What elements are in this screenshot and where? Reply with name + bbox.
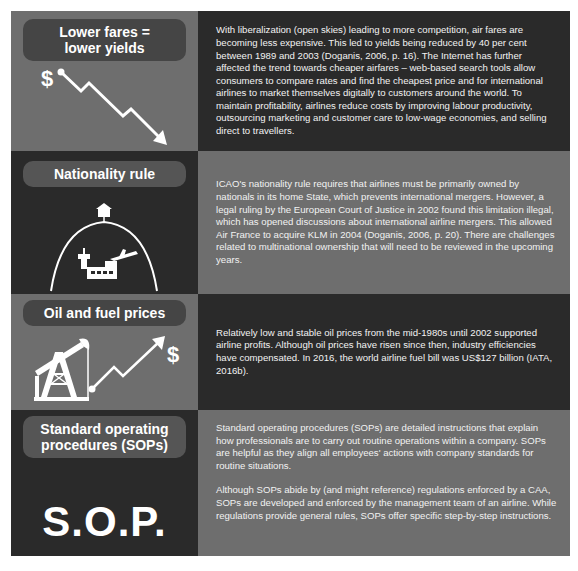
svg-text:$: $ [167, 342, 179, 367]
paragraph: Relatively low and stable oil prices fro… [216, 327, 558, 377]
section-oil-fuel-prices: Oil and fuel prices $ Relat [11, 294, 570, 410]
infographic-table: Lower fares = lower yields $ With libera… [11, 11, 570, 556]
section-body: ICAO's nationality rule requires that ai… [198, 151, 570, 294]
section-lower-fares: Lower fares = lower yields $ With libera… [11, 11, 570, 151]
section-header-cell: Lower fares = lower yields $ [11, 11, 198, 151]
title-line: procedures (SOPs) [27, 437, 182, 453]
paragraph: Standard operating procedures (SOPs) are… [216, 422, 558, 472]
oil-pump-up-trend-icon: $ [11, 294, 198, 410]
section-header-cell: Standard operating procedures (SOPs) S.O… [11, 410, 198, 556]
section-body: With liberalization (open skies) leading… [198, 11, 570, 151]
sop-text-icon: S.O.P. [11, 498, 198, 546]
section-header-cell: Oil and fuel prices $ [11, 294, 198, 410]
section-body: Relatively low and stable oil prices fro… [198, 294, 570, 410]
paragraph: ICAO's nationality rule requires that ai… [216, 178, 558, 266]
section-body: Standard operating procedures (SOPs) are… [198, 410, 570, 556]
airport-under-dome-icon [11, 151, 198, 294]
dollar-down-trend-icon: $ [11, 11, 198, 151]
paragraph: Although SOPs abide by (and might refere… [216, 484, 558, 522]
section-nationality-rule: Nationality rule [11, 151, 570, 294]
section-sops: Standard operating procedures (SOPs) S.O… [11, 410, 570, 556]
svg-text:$: $ [41, 66, 53, 91]
section-title: Standard operating procedures (SOPs) [23, 416, 186, 458]
paragraph: With liberalization (open skies) leading… [216, 24, 558, 137]
section-header-cell: Nationality rule [11, 151, 198, 294]
title-line: Standard operating [27, 421, 182, 437]
